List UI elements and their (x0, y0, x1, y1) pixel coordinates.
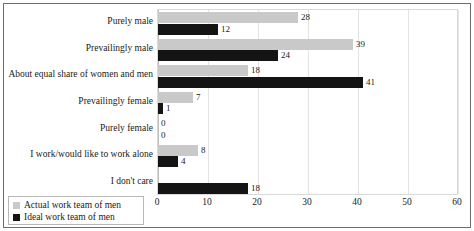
bar-actual (158, 12, 298, 23)
bar-ideal (158, 183, 248, 194)
gridline (308, 10, 309, 194)
category-label: Purely male (1, 16, 153, 26)
x-tick-label: 0 (155, 197, 160, 207)
x-tick-label: 20 (252, 197, 262, 207)
x-tick-label: 40 (352, 197, 362, 207)
legend-item-actual: Actual work team of men (13, 199, 139, 211)
bar-value-ideal: 41 (366, 77, 375, 88)
bar-ideal (158, 24, 218, 35)
legend-item-ideal: Ideal work team of men (13, 211, 139, 223)
category-label: Purely female (1, 123, 153, 133)
legend-swatch-actual-icon (13, 202, 20, 209)
x-tick-label: 60 (452, 197, 462, 207)
bar-value-actual: 0 (161, 118, 166, 129)
category-label: I work/would like to work alone (1, 149, 153, 159)
legend-label-actual: Actual work team of men (24, 199, 121, 211)
plot-area: 28123924184171008418 (157, 9, 458, 195)
bar-ideal (158, 77, 363, 88)
bar-value-ideal: 0 (161, 130, 166, 141)
category-label: Prevailingly male (1, 43, 153, 53)
gridline (208, 10, 209, 194)
bar-value-actual: 28 (301, 12, 310, 23)
x-tick-label: 50 (402, 197, 412, 207)
x-tick-label: 30 (302, 197, 312, 207)
bar-ideal (158, 156, 178, 167)
bar-value-ideal: 18 (251, 183, 260, 194)
gridline (358, 10, 359, 194)
chart-legend: Actual work team of men Ideal work team … (8, 196, 144, 225)
x-tick-label: 10 (202, 197, 212, 207)
bar-actual (158, 145, 198, 156)
bar-actual (158, 65, 248, 76)
bar-value-ideal: 12 (221, 24, 230, 35)
x-axis-tick-labels: 0102030405060 (157, 197, 458, 213)
bar-value-ideal: 4 (181, 156, 186, 167)
category-axis-labels: Purely malePrevailingly maleAbout equal … (0, 9, 153, 195)
gridline (258, 10, 259, 194)
bar-ideal (158, 103, 163, 114)
legend-swatch-ideal-icon (13, 214, 20, 221)
category-label: About equal share of women and men (1, 69, 153, 79)
category-label: I don't care (1, 176, 153, 186)
bar-value-ideal: 1 (166, 103, 171, 114)
chart-figure: Purely malePrevailingly maleAbout equal … (0, 0, 474, 231)
bar-value-actual: 39 (356, 39, 365, 50)
bar-actual (158, 92, 193, 103)
category-label: Prevailingly female (1, 96, 153, 106)
bar-value-ideal: 24 (281, 50, 290, 61)
bar-actual (158, 39, 353, 50)
gridline (458, 10, 459, 194)
bar-value-actual: 7 (196, 92, 201, 103)
bar-value-actual: 8 (201, 145, 206, 156)
bar-value-actual: 18 (251, 65, 260, 76)
legend-label-ideal: Ideal work team of men (24, 211, 115, 223)
bar-ideal (158, 50, 278, 61)
gridline (408, 10, 409, 194)
